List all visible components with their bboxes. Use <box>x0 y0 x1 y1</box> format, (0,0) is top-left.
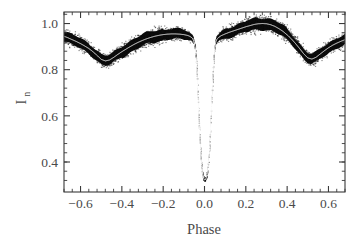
x-tick-label: −0.2 <box>151 196 176 211</box>
y-tick-label: 0.8 <box>41 62 58 77</box>
x-tick-label: 0.6 <box>320 196 337 211</box>
y-axis-title-subscript: n <box>22 92 32 97</box>
x-tick-label: 0.2 <box>237 196 254 211</box>
y-tick-label: 1.0 <box>41 16 58 31</box>
x-axis-title: Phase <box>187 221 221 237</box>
y-tick-label: 0.4 <box>41 155 58 170</box>
x-tick-label: −0.4 <box>110 196 135 211</box>
y-axis-title: I <box>13 99 29 104</box>
plot-canvas: −0.6−0.4−0.20.00.20.40.6 0.40.60.81.0 Ph… <box>0 0 363 243</box>
light-curve-figure: −0.6−0.4−0.20.00.20.40.6 0.40.60.81.0 Ph… <box>0 0 363 243</box>
x-tick-label: 0.4 <box>279 196 296 211</box>
y-tick-label: 0.6 <box>41 109 58 124</box>
x-tick-label: 0.0 <box>196 196 213 211</box>
x-tick-label: −0.6 <box>68 196 93 211</box>
